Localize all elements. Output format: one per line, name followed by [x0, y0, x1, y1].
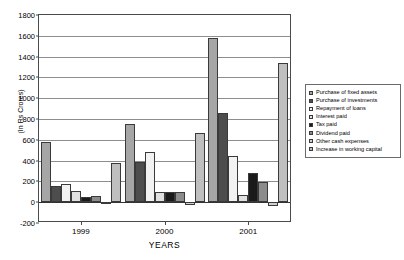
y-tick-label: 400: [22, 156, 35, 165]
legend-swatch-icon: [309, 107, 313, 111]
bar[interactable]: [208, 38, 218, 202]
legend-item[interactable]: Repayment of loans: [309, 105, 398, 112]
chart-container: (In Rs Crores) 1800160014001200100080060…: [0, 0, 404, 260]
bar-slot: [61, 15, 71, 221]
y-tick-label: 1400: [18, 52, 35, 61]
legend-swatch-icon: [309, 115, 313, 119]
x-tick-mark: [81, 221, 82, 225]
bar-slot: [51, 15, 61, 221]
bar-slot: [41, 15, 51, 221]
legend-item[interactable]: Purchase of investments: [309, 97, 398, 104]
bar[interactable]: [165, 192, 175, 202]
bar-set: [206, 15, 290, 221]
legend-swatch-icon: [309, 131, 313, 135]
bar[interactable]: [125, 124, 135, 202]
y-tick-mark: [36, 223, 39, 224]
y-tick-label: -200: [20, 219, 35, 228]
bar[interactable]: [185, 202, 195, 205]
legend-item[interactable]: Other cash expenses: [309, 138, 398, 145]
legend-label: Dividend paid: [316, 130, 350, 137]
x-tick-label: 2001: [206, 227, 290, 236]
legend-label: Repayment of loans: [316, 105, 366, 112]
y-tick-label: 1800: [18, 11, 35, 20]
bar[interactable]: [71, 191, 81, 202]
bar[interactable]: [258, 182, 268, 202]
bar-slot: [248, 15, 258, 221]
y-tick-label: 800: [22, 115, 35, 124]
legend-swatch-icon: [309, 99, 313, 103]
bar-set: [123, 15, 207, 221]
bar-slot: [278, 15, 288, 221]
bar-slot: [208, 15, 218, 221]
bar[interactable]: [41, 142, 51, 202]
x-tick-label: 2000: [123, 227, 207, 236]
bar-slot: [125, 15, 135, 221]
bar-slot: [81, 15, 91, 221]
bar[interactable]: [268, 202, 278, 206]
bar-slot: [258, 15, 268, 221]
legend-item[interactable]: Tax paid: [309, 121, 398, 128]
bar[interactable]: [111, 163, 121, 203]
x-tick-mark: [248, 221, 249, 225]
bar-slot: [155, 15, 165, 221]
bar[interactable]: [61, 184, 71, 202]
bar-set: [39, 15, 123, 221]
bar[interactable]: [91, 196, 101, 202]
legend-swatch-icon: [309, 123, 313, 127]
legend-swatch-icon: [309, 139, 313, 143]
legend-item[interactable]: Increase in working capital: [309, 146, 398, 153]
plot-area: 180016001400120010008006004002000-200 19…: [38, 14, 291, 222]
bar-slot: [175, 15, 185, 221]
legend-label: Interest paid: [316, 113, 347, 120]
x-axis-title: YEARS: [38, 240, 291, 250]
bar[interactable]: [248, 173, 258, 203]
bar-group: 1999: [39, 15, 123, 221]
bar-slot: [238, 15, 248, 221]
y-tick-label: 200: [22, 177, 35, 186]
legend-label: Purchase of investments: [316, 97, 377, 104]
y-tick-label: 1000: [18, 94, 35, 103]
x-tick-mark: [165, 221, 166, 225]
bar-slot: [165, 15, 175, 221]
bar[interactable]: [278, 63, 288, 202]
bar-slot: [185, 15, 195, 221]
bar[interactable]: [51, 186, 61, 203]
bar[interactable]: [175, 192, 185, 202]
bar-slot: [228, 15, 238, 221]
chart-legend: Purchase of fixed assetsPurchase of inve…: [305, 84, 401, 158]
legend-item[interactable]: Purchase of fixed assets: [309, 89, 398, 96]
bar[interactable]: [135, 162, 145, 203]
bar-slot: [268, 15, 278, 221]
bar-group: 2000: [123, 15, 207, 221]
legend-item[interactable]: Interest paid: [309, 113, 398, 120]
legend-swatch-icon: [309, 147, 313, 151]
y-tick-label: 1600: [18, 31, 35, 40]
bar-slot: [111, 15, 121, 221]
y-tick-label: 600: [22, 135, 35, 144]
legend-swatch-icon: [309, 91, 313, 95]
bar-slot: [71, 15, 81, 221]
legend-label: Purchase of fixed assets: [316, 89, 377, 96]
bar-slot: [145, 15, 155, 221]
bar[interactable]: [81, 197, 91, 202]
x-tick-label: 1999: [39, 227, 123, 236]
bar[interactable]: [145, 152, 155, 202]
bar-slot: [91, 15, 101, 221]
bar[interactable]: [155, 192, 165, 202]
bar[interactable]: [228, 156, 238, 202]
legend-item[interactable]: Dividend paid: [309, 130, 398, 137]
legend-label: Tax paid: [316, 121, 337, 128]
bar[interactable]: [195, 133, 205, 203]
bar-group: 2001: [206, 15, 290, 221]
bar-slot: [195, 15, 205, 221]
bar-slot: [101, 15, 111, 221]
y-tick-label: 0: [31, 198, 35, 207]
bar[interactable]: [238, 195, 248, 202]
legend-label: Increase in working capital: [316, 146, 382, 153]
bar-groups: 199920002001: [39, 15, 290, 221]
y-tick-label: 1200: [18, 73, 35, 82]
bar[interactable]: [101, 202, 111, 204]
bar-slot: [218, 15, 228, 221]
bar[interactable]: [218, 113, 228, 202]
bar-slot: [135, 15, 145, 221]
